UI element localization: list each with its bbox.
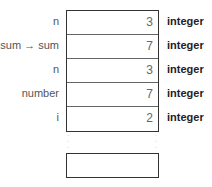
cell-value: 3 bbox=[146, 63, 153, 77]
cell-label: sum → sum bbox=[0, 39, 59, 51]
cell-label: n bbox=[53, 63, 59, 75]
stack-bottom-cell bbox=[66, 153, 159, 178]
cell-label: number bbox=[22, 87, 59, 99]
cell-type: integer bbox=[167, 111, 204, 123]
stack-cell: 3 bbox=[67, 59, 158, 83]
cell-type: integer bbox=[167, 15, 204, 27]
memory-stack: 3 7 3 7 2 bbox=[66, 10, 159, 132]
cell-value: 3 bbox=[146, 15, 153, 29]
stack-cell: 3 bbox=[67, 11, 158, 35]
cell-label: i bbox=[57, 111, 59, 123]
cell-type: integer bbox=[167, 87, 204, 99]
cell-type: integer bbox=[167, 39, 204, 51]
continuation-dots-right: · · · bbox=[155, 132, 157, 150]
cell-type: integer bbox=[167, 63, 204, 75]
stack-cell: 7 bbox=[67, 83, 158, 107]
cell-label: n bbox=[53, 15, 59, 27]
stack-cell: 7 bbox=[67, 35, 158, 59]
stack-cell: 2 bbox=[67, 107, 158, 131]
cell-value: 2 bbox=[146, 111, 153, 125]
continuation-dots-left: · · · bbox=[67, 132, 69, 150]
cell-value: 7 bbox=[146, 39, 153, 53]
cell-value: 7 bbox=[146, 87, 153, 101]
